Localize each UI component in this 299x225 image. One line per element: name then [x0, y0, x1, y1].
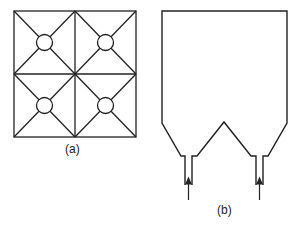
figure-a-grid — [14, 11, 136, 137]
diagram-canvas — [0, 0, 299, 225]
figure-b-vessel — [162, 11, 287, 185]
figure-b-label: (b) — [217, 203, 232, 217]
inlet-arrows — [186, 178, 262, 200]
figure-a-label: (a) — [65, 142, 80, 156]
